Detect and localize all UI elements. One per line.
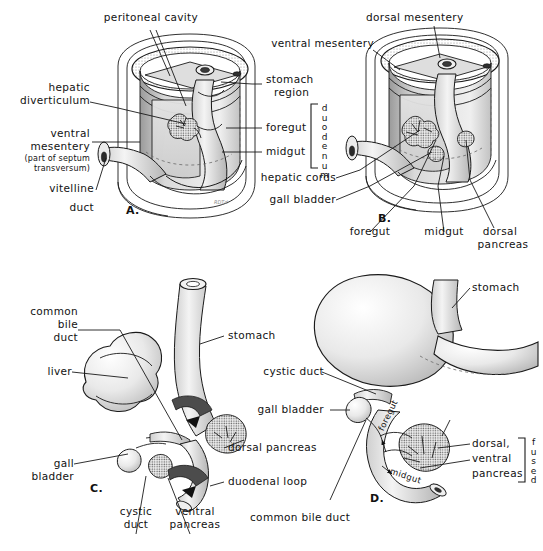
label-ventral-d: ventral bbox=[472, 453, 512, 465]
panel-b-id: B. bbox=[378, 212, 391, 225]
svg-text:RDTd: RDTd bbox=[214, 199, 228, 205]
label-ventral-c: ventral bbox=[162, 506, 228, 518]
label-stomach-region-1: stomach bbox=[266, 74, 314, 86]
panel-d-id: D. bbox=[370, 492, 384, 505]
label-stomach-d: stomach bbox=[472, 282, 520, 294]
dorsal-pancreas-bud bbox=[458, 131, 475, 147]
panel-b-illustration bbox=[346, 28, 508, 212]
label-gall-bladder-d: gall bladder bbox=[228, 404, 324, 416]
panel-c-id: C. bbox=[90, 482, 103, 495]
label-gall-bladder-b: gall bladder bbox=[250, 194, 336, 206]
label-fused-vertical: fused bbox=[529, 438, 538, 486]
label-bladder-c: bladder bbox=[0, 471, 74, 483]
label-stomach-region-2: region bbox=[274, 87, 309, 99]
label-duodenum-vertical: duodenum bbox=[320, 104, 329, 181]
label-vitelline: vitelline bbox=[0, 183, 94, 195]
label-dorsal-pancreas-b: pancreas bbox=[470, 239, 536, 251]
label-septum-note-2: transversum) bbox=[0, 164, 90, 174]
figure-canvas: RDTd bbox=[0, 0, 543, 551]
label-vitelline-duct: duct bbox=[0, 202, 94, 214]
duodenum-bracket bbox=[311, 104, 318, 168]
label-gall-c: gall bbox=[0, 458, 74, 470]
label-dorsal-d: dorsal, bbox=[472, 438, 510, 450]
label-cystic-duct-d: cystic duct bbox=[228, 366, 324, 378]
label-stomach-c: stomach bbox=[228, 330, 276, 342]
label-liver: liver bbox=[0, 366, 72, 378]
label-midgut-a: midgut bbox=[266, 146, 305, 158]
label-mesentery: mesentery bbox=[0, 141, 90, 153]
panel-a-illustration: RDTd bbox=[98, 34, 255, 218]
label-bile-c: bile bbox=[0, 319, 78, 331]
label-diverticulum: diverticulum bbox=[0, 95, 90, 107]
panel-c-illustration bbox=[83, 279, 246, 513]
panel-a-id: A. bbox=[126, 204, 140, 217]
stacked-letter: d bbox=[529, 476, 538, 486]
label-midgut-b: midgut bbox=[414, 226, 474, 238]
label-foregut-a: foregut bbox=[266, 122, 307, 134]
label-septum-note-1: (part of septum bbox=[0, 154, 90, 164]
label-common-c: common bbox=[0, 306, 78, 318]
gall-bladder-c bbox=[117, 449, 141, 472]
label-duodenal-loop: duodenal loop bbox=[228, 476, 307, 488]
liver-lobe bbox=[83, 332, 161, 411]
label-dorsal-mesentery: dorsal mesentery bbox=[366, 12, 464, 24]
label-peritoneal-cavity: peritoneal cavity bbox=[66, 12, 236, 24]
label-ventral-mesentery-b: ventral mesentery bbox=[258, 38, 374, 50]
label-ventral: ventral bbox=[0, 128, 90, 140]
label-duct-c: duct bbox=[0, 332, 78, 344]
label-hepatic-cords: hepatic cords bbox=[250, 172, 336, 184]
label-pancreas-d: pancreas bbox=[472, 468, 523, 480]
label-common-bile-duct-d: common bile duct bbox=[250, 512, 350, 524]
label-hepatic: hepatic bbox=[0, 82, 90, 94]
label-ventral-pancreas-c: pancreas bbox=[162, 519, 228, 531]
label-cystic-c: cystic bbox=[106, 506, 166, 518]
label-dorsal-b: dorsal bbox=[470, 226, 530, 238]
label-foregut-b: foregut bbox=[340, 226, 400, 238]
label-dorsal-pancreas-c: dorsal pancreas bbox=[228, 442, 317, 454]
label-cystic-duct-c: duct bbox=[106, 519, 166, 531]
